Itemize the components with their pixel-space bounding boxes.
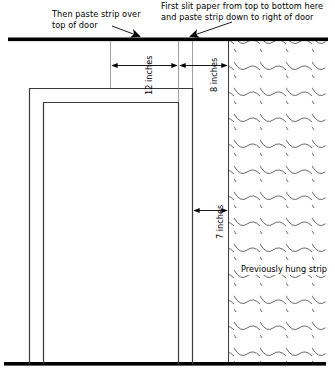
door-frame-outer-outline — [30, 89, 193, 365]
previously-hung-strip-label: Previously hung strip — [240, 264, 328, 275]
first-slit-paper-callout-label: First slit paper from top to bottom here… — [161, 1, 323, 22]
diagram-canvas — [0, 0, 335, 379]
floor-line — [4, 362, 326, 366]
door-opening-inner-outline — [44, 103, 179, 365]
first-slit-paper-leader — [190, 22, 232, 37]
then-paste-strip-callout-label: Then paste strip over top of door — [52, 9, 141, 30]
dimension-7-inches-label: 7 inches — [215, 205, 225, 239]
ceiling-line — [8, 38, 328, 42]
wallpaper-door-diagram: Then paste strip over top of door First … — [0, 0, 335, 379]
dimension-12-inches-label: 12 inches — [144, 56, 154, 95]
dimension-8-inches-label: 8 inches — [209, 58, 219, 92]
previously-hung-strip-region — [229, 41, 326, 365]
